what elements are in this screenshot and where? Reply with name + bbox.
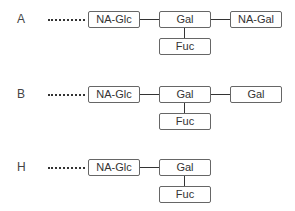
dotted-link xyxy=(48,167,85,169)
node-na-gal: NA-Gal xyxy=(230,11,282,28)
row-label-b: B xyxy=(17,87,25,101)
node-fuc: Fuc xyxy=(159,113,211,130)
node-fuc: Fuc xyxy=(159,186,211,203)
dotted-link xyxy=(48,19,85,21)
node-na-glc: NA-Glc xyxy=(88,86,140,103)
branch-bond xyxy=(184,103,185,113)
node-gal: Gal xyxy=(159,86,211,103)
bond xyxy=(140,167,159,168)
bond xyxy=(211,94,230,95)
node-gal-terminal: Gal xyxy=(230,86,282,103)
dotted-link xyxy=(48,94,85,96)
node-na-glc: NA-Glc xyxy=(88,159,140,176)
node-gal: Gal xyxy=(159,159,211,176)
bond xyxy=(140,94,159,95)
branch-bond xyxy=(184,176,185,186)
branch-bond xyxy=(184,28,185,38)
node-gal: Gal xyxy=(159,11,211,28)
node-na-glc: NA-Glc xyxy=(88,11,140,28)
bond xyxy=(140,19,159,20)
row-label-a: A xyxy=(17,12,25,26)
bond xyxy=(211,19,230,20)
row-label-h: H xyxy=(17,160,26,174)
node-fuc: Fuc xyxy=(159,38,211,55)
